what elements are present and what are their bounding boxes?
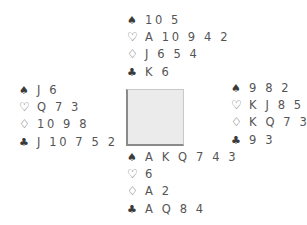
west-diamonds: ♢10 9 8 — [19, 116, 89, 133]
club-icon: ♣ — [127, 201, 145, 218]
north-diamonds: ♢J 6 5 4 — [127, 46, 200, 63]
spade-icon: ♠ — [127, 12, 145, 29]
south-spades-cards: A K Q 7 4 3 — [145, 149, 238, 166]
south-clubs: ♣A Q 8 4 — [127, 201, 206, 218]
north-spades-cards: 10 5 — [145, 12, 181, 29]
diamond-icon: ♢ — [19, 116, 37, 133]
north-clubs-cards: K 6 — [145, 64, 171, 81]
spade-icon: ♠ — [19, 82, 37, 99]
heart-icon: ♡ — [19, 99, 37, 116]
diamond-icon: ♢ — [231, 114, 249, 131]
east-hearts: ♡K J 8 5 — [231, 97, 304, 114]
heart-icon: ♡ — [127, 29, 145, 46]
south-hearts: ♡6 — [127, 166, 155, 183]
south-clubs-cards: A Q 8 4 — [145, 201, 206, 218]
east-clubs: ♣9 3 — [231, 132, 275, 149]
south-diamonds-cards: A 2 — [145, 183, 172, 200]
east-spades: ♠9 8 2 — [231, 80, 291, 97]
north-spades: ♠10 5 — [127, 12, 181, 29]
east-clubs-cards: 9 3 — [249, 132, 275, 149]
spade-icon: ♠ — [127, 149, 145, 166]
heart-icon: ♡ — [231, 97, 249, 114]
west-spades-cards: J 6 — [37, 82, 59, 99]
south-hearts-cards: 6 — [145, 166, 155, 183]
north-hearts: ♡A 10 9 4 2 — [127, 29, 230, 46]
north-diamonds-cards: J 6 5 4 — [145, 46, 200, 63]
west-clubs-cards: J 10 7 5 2 — [37, 134, 118, 151]
card-table — [126, 89, 184, 146]
heart-icon: ♡ — [127, 166, 145, 183]
south-diamonds: ♢A 2 — [127, 183, 172, 200]
west-diamonds-cards: 10 9 8 — [37, 116, 89, 133]
club-icon: ♣ — [127, 64, 145, 81]
north-hearts-cards: A 10 9 4 2 — [145, 29, 230, 46]
south-spades: ♠A K Q 7 4 3 — [127, 149, 238, 166]
spade-icon: ♠ — [231, 80, 249, 97]
east-diamonds: ♢K Q 7 3 — [231, 114, 307, 131]
west-hearts: ♡Q 7 3 — [19, 99, 81, 116]
diamond-icon: ♢ — [127, 46, 145, 63]
east-hearts-cards: K J 8 5 — [249, 97, 304, 114]
club-icon: ♣ — [231, 132, 249, 149]
club-icon: ♣ — [19, 134, 37, 151]
diamond-icon: ♢ — [127, 183, 145, 200]
west-spades: ♠J 6 — [19, 82, 59, 99]
north-clubs: ♣K 6 — [127, 64, 171, 81]
east-spades-cards: 9 8 2 — [249, 80, 291, 97]
west-hearts-cards: Q 7 3 — [37, 99, 81, 116]
east-diamonds-cards: K Q 7 3 — [249, 114, 307, 131]
west-clubs: ♣J 10 7 5 2 — [19, 134, 118, 151]
